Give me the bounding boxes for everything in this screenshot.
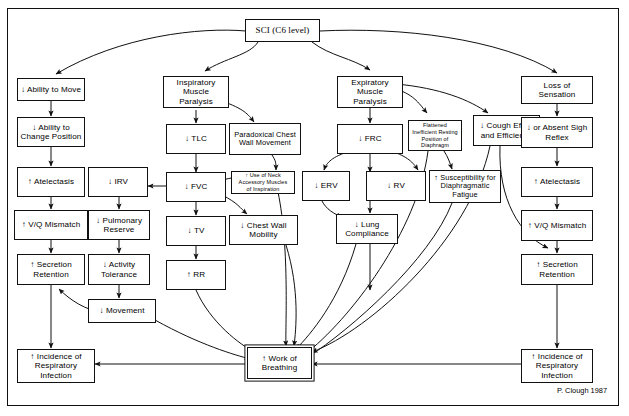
node-fvc[interactable]: ↓ FVC — [166, 172, 226, 202]
node-incidence-respiratory-infection-right[interactable]: ↑ Incidence ofRespiratoryInfection — [521, 349, 593, 383]
node-vq-mismatch-right-label: ↑ V/Q Mismatch — [526, 221, 589, 230]
node-tlc-label: ↓ TLC — [183, 134, 209, 143]
node-incidence-respiratory-infection-left[interactable]: ↑ Incidence ofRespiratoryInfection — [17, 349, 95, 383]
node-rv-label: ↓ RV — [385, 181, 407, 190]
node-inspiratory-muscle-paralysis[interactable]: InspiratoryMuscle Paralysis — [163, 76, 229, 108]
node-irv-label: ↓ IRV — [106, 177, 130, 186]
figure-credit: P. Clough 1987 — [557, 386, 607, 395]
node-loss-of-sensation-label: Loss of Sensation — [522, 81, 592, 99]
node-pulmonary-reserve-label: ↓ PulmonaryReserve — [94, 216, 144, 234]
node-atelectasis-left[interactable]: ↑ Atelectasis — [17, 167, 85, 197]
node-chest-wall-mobility-label: ↓ Chest WallMobility — [238, 221, 288, 239]
node-flattened-diaphragm-label: FlattenedInefficient RestingPosition ofD… — [410, 122, 460, 149]
node-frc-label: ↓ FRC — [356, 134, 383, 143]
node-erv-label: ↓ ERV — [312, 181, 339, 190]
node-expiratory-muscle-paralysis[interactable]: ExpiratoryMuscle Paralysis — [337, 76, 403, 108]
node-pulmonary-reserve[interactable]: ↓ PulmonaryReserve — [88, 210, 150, 240]
node-work-of-breathing-label: ↑ Work ofBreathing — [260, 354, 300, 372]
node-sigh-reflex[interactable]: ↓ or Absent SighReflex — [521, 117, 593, 148]
node-tv-label: ↓ TV — [186, 226, 207, 235]
node-incidence-respiratory-infection-left-label: ↑ Incidence ofRespiratoryInfection — [28, 352, 83, 379]
node-lung-compliance-label: ↓ LungCompliance — [343, 220, 391, 238]
node-vq-mismatch-left[interactable]: ↑ V/Q Mismatch — [14, 210, 88, 240]
node-lung-compliance[interactable]: ↓ LungCompliance — [336, 214, 398, 244]
figure-frame — [7, 8, 619, 406]
node-neck-accessory-muscles[interactable]: ↑ Use of NeckAccessory Musclesof Inspira… — [231, 171, 295, 194]
node-secretion-retention-left-label: ↑ SecretionRetention — [28, 260, 74, 278]
node-flattened-diaphragm[interactable]: FlattenedInefficient RestingPosition ofD… — [408, 120, 462, 151]
figure-canvas: SCI (C6 level) ↓ Ability to Move ↓ Abili… — [0, 0, 629, 416]
node-rr[interactable]: ↑ RR — [166, 260, 226, 290]
node-erv[interactable]: ↓ ERV — [302, 171, 350, 201]
node-secretion-retention-left[interactable]: ↑ SecretionRetention — [17, 254, 85, 285]
node-frc[interactable]: ↓ FRC — [337, 124, 403, 154]
node-diaphragmatic-fatigue-label: ↑ Susceptibility forDiaphragmaticFatigue — [432, 174, 498, 199]
node-vq-mismatch-right[interactable]: ↑ V/Q Mismatch — [521, 210, 593, 241]
node-fvc-label: ↓ FVC — [183, 182, 210, 191]
node-secretion-retention-right-label: ↑ SecretionRetention — [534, 260, 580, 278]
node-chest-wall-mobility[interactable]: ↓ Chest WallMobility — [229, 215, 298, 245]
node-sigh-reflex-label: ↓ or Absent SighReflex — [525, 123, 590, 141]
node-change-position-label: ↓ Ability toChange Position — [19, 123, 84, 141]
node-neck-accessory-muscles-label: ↑ Use of NeckAccessory Musclesof Inspira… — [237, 172, 290, 192]
node-sci-label: SCI (C6 level) — [254, 25, 312, 35]
node-paradoxical-chest-wall-movement-label: Paradoxical ChestWall Movement — [232, 131, 298, 148]
node-tv[interactable]: ↓ TV — [166, 216, 226, 246]
node-loss-of-sensation[interactable]: Loss of Sensation — [521, 76, 593, 104]
node-expiratory-muscle-paralysis-label: ExpiratoryMuscle Paralysis — [338, 78, 402, 105]
node-atelectasis-right-label: ↑ Atelectasis — [532, 177, 582, 186]
node-irv[interactable]: ↓ IRV — [88, 167, 148, 197]
node-rr-label: ↑ RR — [185, 270, 207, 279]
node-diaphragmatic-fatigue[interactable]: ↑ Susceptibility forDiaphragmaticFatigue — [429, 170, 501, 203]
node-change-position[interactable]: ↓ Ability toChange Position — [17, 117, 85, 147]
node-ability-to-move-label: ↓ Ability to Move — [19, 85, 83, 94]
node-vq-mismatch-left-label: ↑ V/Q Mismatch — [20, 220, 83, 229]
node-inspiratory-muscle-paralysis-label: InspiratoryMuscle Paralysis — [164, 78, 228, 105]
node-ability-to-move[interactable]: ↓ Ability to Move — [17, 78, 85, 101]
node-paradoxical-chest-wall-movement[interactable]: Paradoxical ChestWall Movement — [229, 123, 301, 155]
node-atelectasis-left-label: ↑ Atelectasis — [26, 177, 76, 186]
node-sci[interactable]: SCI (C6 level) — [245, 19, 320, 42]
node-movement-label: ↓ Movement — [97, 306, 146, 315]
node-rv[interactable]: ↓ RV — [366, 171, 426, 201]
node-movement[interactable]: ↓ Movement — [88, 299, 156, 323]
node-atelectasis-right[interactable]: ↑ Atelectasis — [521, 167, 593, 197]
node-activity-tolerance[interactable]: ↓ ActivityTolerance — [88, 254, 150, 285]
node-secretion-retention-right[interactable]: ↑ SecretionRetention — [521, 254, 593, 285]
node-work-of-breathing[interactable]: ↑ Work ofBreathing — [247, 347, 312, 379]
node-incidence-respiratory-infection-right-label: ↑ Incidence ofRespiratoryInfection — [529, 352, 584, 379]
node-tlc[interactable]: ↓ TLC — [166, 124, 226, 154]
node-activity-tolerance-label: ↓ ActivityTolerance — [99, 260, 139, 278]
